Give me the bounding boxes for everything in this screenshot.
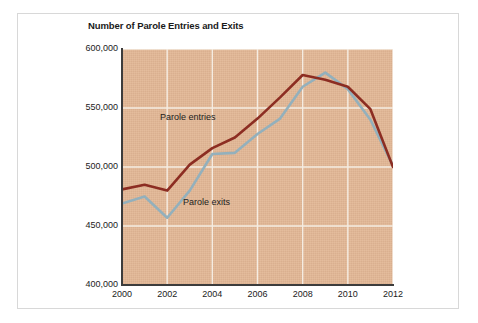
chart-figure: Number of Parole Entries and Exits 400,0… bbox=[0, 0, 478, 323]
x-tick-label: 2012 bbox=[383, 289, 403, 299]
series-label-parole-exits: Parole exits bbox=[183, 197, 230, 207]
x-tick-label: 2006 bbox=[247, 289, 267, 299]
x-tick-label: 2008 bbox=[293, 289, 313, 299]
x-axis-tick-labels: 2000200220042006200820102012 bbox=[0, 0, 478, 323]
x-tick-label: 2002 bbox=[157, 289, 177, 299]
series-label-parole-entries: Parole entries bbox=[160, 112, 216, 122]
x-tick-label: 2004 bbox=[202, 289, 222, 299]
x-tick-label: 2010 bbox=[338, 289, 358, 299]
x-tick-label: 2000 bbox=[112, 289, 132, 299]
